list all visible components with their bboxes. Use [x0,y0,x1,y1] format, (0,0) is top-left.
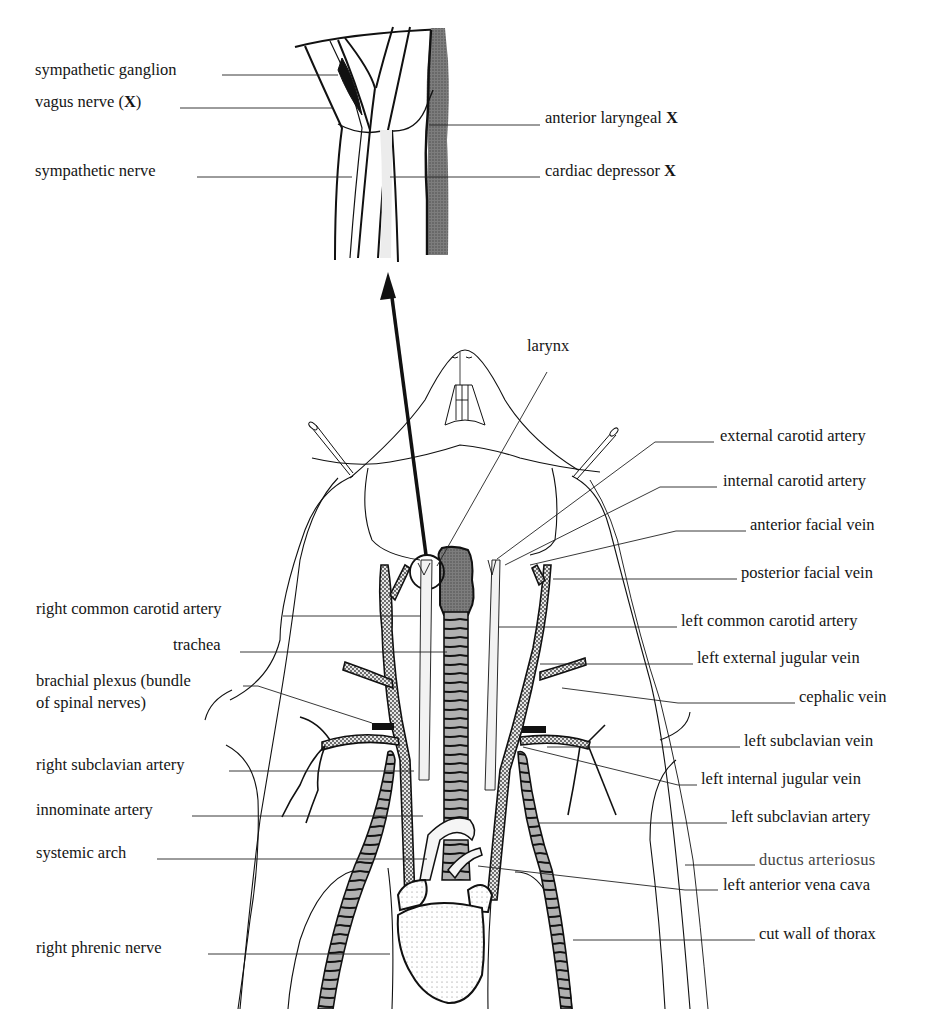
leader-line [478,866,718,890]
magnify-arrow [380,272,426,555]
label-brachial-plexus: brachial plexus (bundle [36,671,191,691]
dissection-pins [308,421,620,479]
inset-nerve-detail [295,27,449,262]
label-anterior-laryngeal: anterior laryngeal X [545,108,678,128]
label-right-common-carotid-artery: right common carotid artery [36,599,222,619]
label-ductus-arteriosus: ductus arteriosus [759,850,875,870]
label-systemic-arch: systemic arch [36,843,126,863]
leader-line [562,688,795,703]
label-innominate-artery: innominate artery [36,800,153,820]
label-larynx: larynx [527,336,569,356]
label-left-common-carotid-artery: left common carotid artery [681,611,857,631]
label-vagus-nerve: vagus nerve (X) [35,92,141,112]
label-internal-carotid-artery: internal carotid artery [723,471,866,491]
label-left-subclavian-artery: left subclavian artery [731,807,870,827]
leader-line [523,747,697,785]
leader-line [437,372,547,566]
leader-line [497,442,714,559]
label-external-carotid-artery: external carotid artery [720,426,866,446]
label-left-subclavian-vein: left subclavian vein [744,731,873,751]
leader-lines [157,75,795,954]
label-anterior-facial-vein: anterior facial vein [750,515,875,535]
label-right-subclavian-artery: right subclavian artery [36,755,184,775]
heart-drawing [398,880,492,1003]
trachea-drawing [438,547,473,830]
label-cut-wall-of-thorax: cut wall of thorax [759,924,876,944]
frog-neck-dissection-diagram: sympathetic ganglionvagus nerve (X)anter… [0,0,932,1009]
systemic-arch-drawing [420,818,482,880]
label-sympathetic-nerve: sympathetic nerve [35,161,156,181]
label-sympathetic-ganglion: sympathetic ganglion [35,60,177,80]
label-posterior-facial-vein: posterior facial vein [741,563,873,583]
label-left-external-jugular-vein: left external jugular vein [697,648,860,668]
label-trachea: trachea [173,635,221,655]
label-right-phrenic-nerve: right phrenic nerve [36,938,162,958]
leader-line [243,686,372,723]
label-cephalic-vein: cephalic vein [799,687,887,707]
label-cardiac-depressor: cardiac depressor X [545,161,676,181]
label-left-internal-jugular-vein: left internal jugular vein [701,769,861,789]
label-left-anterior-vena-cava: left anterior vena cava [723,875,870,895]
label-brachial-plexus-2: of spinal nerves) [36,693,146,713]
